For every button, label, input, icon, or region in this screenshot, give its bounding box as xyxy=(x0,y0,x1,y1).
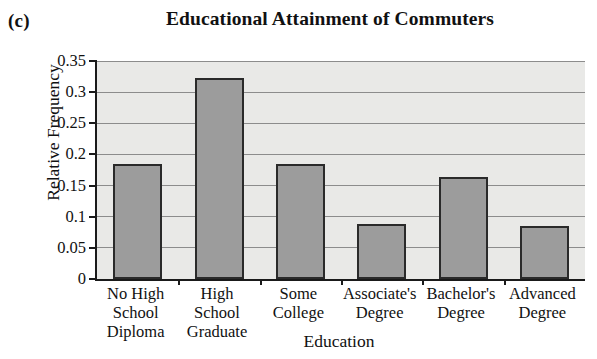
x-axis-title: Education xyxy=(95,331,583,352)
gridline xyxy=(97,61,585,62)
y-tick-mark xyxy=(89,122,97,124)
x-category-label-line: Degree xyxy=(339,303,420,322)
bar xyxy=(113,164,162,279)
plot-inner: 00.050.10.150.20.250.30.35 xyxy=(97,61,585,279)
chart-title: Educational Attainment of Commuters xyxy=(120,8,540,30)
x-category-label-line: Associate's xyxy=(339,284,420,303)
x-category-label: SomeCollege xyxy=(258,284,339,322)
x-category-label-line: Bachelor's xyxy=(420,284,501,303)
x-category-label: AdvancedDegree xyxy=(502,284,583,322)
y-tick-label: 0.25 xyxy=(34,113,86,133)
bar xyxy=(439,177,488,279)
gridline xyxy=(97,216,585,217)
x-category-label-line: Some xyxy=(258,284,339,303)
y-tick-label: 0.05 xyxy=(34,238,86,258)
y-tick-mark xyxy=(89,91,97,93)
gridline xyxy=(97,123,585,124)
x-category-label-line: Advanced xyxy=(502,284,583,303)
gridline xyxy=(97,154,585,155)
x-category-label-line: College xyxy=(258,303,339,322)
panel-label: (c) xyxy=(8,10,30,32)
x-category-label-line: Degree xyxy=(420,303,501,322)
x-category-label-line: Degree xyxy=(502,303,583,322)
x-category-label-line: High School xyxy=(176,284,257,322)
y-tick-mark xyxy=(89,153,97,155)
y-tick-mark xyxy=(89,185,97,187)
y-tick-mark xyxy=(89,216,97,218)
x-category-label: Bachelor'sDegree xyxy=(420,284,501,322)
y-tick-label: 0 xyxy=(34,269,86,289)
x-category-label-line: School xyxy=(95,303,176,322)
y-tick-label: 0.15 xyxy=(34,176,86,196)
y-tick-mark xyxy=(89,60,97,62)
y-tick-mark xyxy=(89,247,97,249)
gridline xyxy=(97,92,585,93)
y-tick-label: 0.3 xyxy=(34,82,86,102)
gridline xyxy=(97,247,585,248)
x-category-label-line: No High xyxy=(95,284,176,303)
gridline xyxy=(97,185,585,186)
y-tick-label: 0.2 xyxy=(34,144,86,164)
bar xyxy=(520,226,569,279)
y-tick-mark xyxy=(89,278,97,280)
bar xyxy=(195,78,244,279)
y-tick-label: 0.35 xyxy=(34,51,86,71)
bar xyxy=(357,224,406,279)
y-tick-label: 0.1 xyxy=(34,207,86,227)
x-category-label: Associate'sDegree xyxy=(339,284,420,322)
plot-area: 00.050.10.150.20.250.30.35 xyxy=(95,61,585,281)
chart-figure: (c) Educational Attainment of Commuters … xyxy=(0,0,597,359)
bar xyxy=(276,164,325,279)
